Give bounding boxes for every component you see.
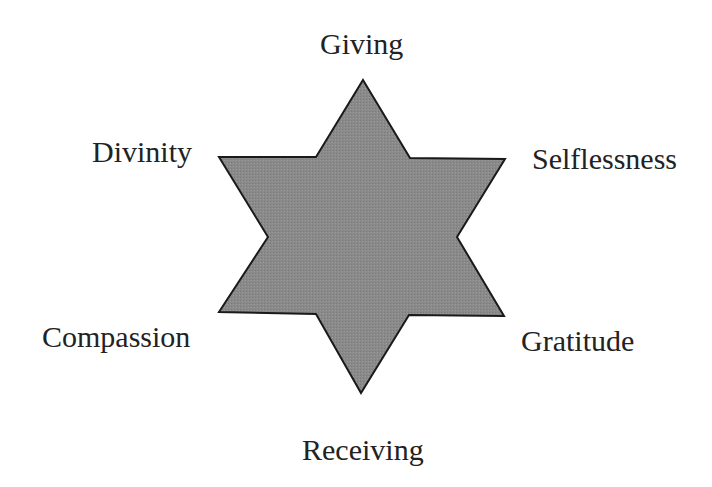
label-giving: Giving (320, 29, 403, 59)
hexagram-diagram (0, 0, 712, 487)
label-receiving: Receiving (302, 435, 424, 465)
label-divinity: Divinity (92, 137, 192, 167)
six-pointed-star-icon (219, 80, 505, 393)
label-gratitude: Gratitude (521, 326, 634, 356)
label-selflessness: Selflessness (532, 144, 677, 174)
label-compassion: Compassion (42, 322, 190, 352)
